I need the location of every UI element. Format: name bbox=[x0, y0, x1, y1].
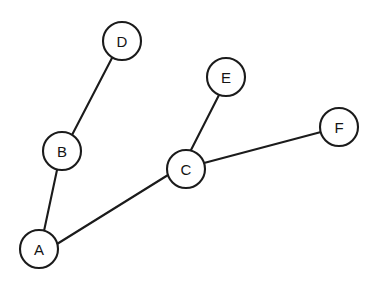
node-a-label: A bbox=[34, 241, 44, 258]
graph-diagram: A B C D E F bbox=[0, 0, 381, 287]
node-a[interactable]: A bbox=[20, 230, 58, 268]
node-e[interactable]: E bbox=[207, 58, 245, 96]
node-b[interactable]: B bbox=[43, 132, 81, 170]
node-e-label: E bbox=[221, 69, 231, 86]
node-f[interactable]: F bbox=[320, 108, 358, 146]
node-d-label: D bbox=[117, 33, 128, 50]
node-c-label: C bbox=[181, 161, 192, 178]
node-b-label: B bbox=[57, 143, 67, 160]
node-d[interactable]: D bbox=[103, 22, 141, 60]
node-f-label: F bbox=[334, 119, 343, 136]
node-c[interactable]: C bbox=[167, 150, 205, 188]
